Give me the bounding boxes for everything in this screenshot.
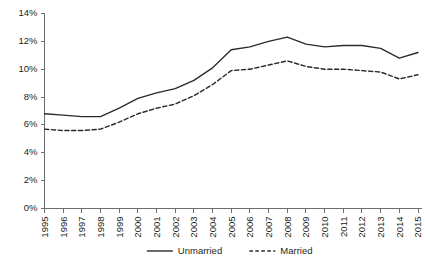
x-tick-label: 2001 — [151, 217, 162, 238]
x-tick-label: 2002 — [170, 217, 181, 238]
chart-canvas: 0%2%4%6%8%10%12%14% 19951996199719981999… — [0, 0, 425, 264]
x-tick-label: 2003 — [188, 217, 199, 238]
x-tick-label: 2013 — [375, 217, 386, 238]
x-tick-label: 2015 — [412, 217, 423, 238]
x-tick-label: 1996 — [58, 217, 69, 238]
x-tick-label: 2005 — [226, 217, 237, 238]
y-tick-label: 8% — [24, 91, 38, 102]
y-tick-label: 12% — [18, 35, 38, 46]
x-axis: 1995199619971998199920002001200220032004… — [39, 209, 424, 238]
y-tick-label: 2% — [24, 174, 38, 185]
x-tick-label: 1998 — [95, 217, 106, 238]
x-tick-label: 2008 — [282, 217, 293, 238]
x-tick-label: 2004 — [207, 217, 218, 238]
x-tick-label: 2007 — [263, 217, 274, 238]
line-chart: 0%2%4%6%8%10%12%14% 19951996199719981999… — [0, 0, 425, 264]
x-tick-label: 2012 — [356, 217, 367, 238]
chart-legend: UnmarriedMarried — [147, 245, 313, 256]
x-tick-label: 2011 — [338, 217, 349, 237]
series-lines — [45, 37, 419, 130]
y-axis: 0%2%4%6%8%10%12%14% — [18, 7, 44, 213]
x-tick-label: 2006 — [244, 217, 255, 238]
y-tick-label: 14% — [18, 7, 38, 18]
x-tick-label: 1995 — [39, 217, 50, 238]
x-tick-label: 2014 — [394, 217, 405, 238]
y-tick-label: 10% — [18, 63, 38, 74]
y-tick-label: 0% — [24, 202, 38, 213]
series-line-married — [45, 61, 419, 131]
x-tick-label: 2009 — [300, 217, 311, 238]
legend-label-married: Married — [280, 245, 312, 256]
x-tick-label: 2000 — [132, 217, 143, 238]
y-tick-label: 4% — [24, 146, 38, 157]
y-tick-label: 6% — [24, 118, 38, 129]
legend-label-unmarried: Unmarried — [178, 245, 222, 256]
series-line-unmarried — [45, 37, 419, 116]
x-tick-label: 1999 — [114, 217, 125, 238]
x-tick-label: 2010 — [319, 217, 330, 238]
x-tick-label: 1997 — [76, 217, 87, 238]
